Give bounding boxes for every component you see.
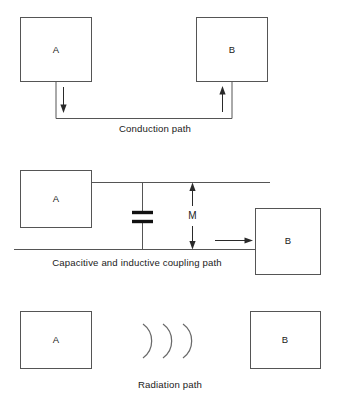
radiation-block-b-label: B [282,334,288,345]
coupling-block-a: A [21,171,92,228]
coupling-capacitor [132,213,153,222]
coupling-block-b: B [256,209,321,275]
conduction-block-a-label: A [53,44,60,55]
section-radiation-path: A B Radiation path [21,312,321,390]
radiation-waves [143,324,192,358]
conduction-path-caption: Conduction path [119,123,191,134]
coupling-paths-diagram: A B Conduction path [0,0,342,410]
downward-current-arrow [60,87,66,113]
radiation-block-b: B [251,312,321,369]
section-conduction-path: A B Conduction path [21,18,268,135]
coupled-current-arrow-head [245,237,254,243]
radiation-arc-3 [183,324,192,358]
coupling-block-b-label: B [285,235,291,246]
radiation-block-a-label: A [53,334,60,345]
mutual-inductance-label: M [188,210,196,221]
mutual-inductance-arrow-head-up [189,183,195,192]
radiation-block-a: A [21,312,92,369]
radiation-arc-1 [143,324,152,358]
capacitive-inductive-path-caption: Capacitive and inductive coupling path [52,257,221,268]
radiation-path-caption: Radiation path [138,379,202,390]
coupling-block-a-label: A [53,193,60,204]
radiation-arc-2 [163,324,172,358]
mutual-inductance-measure: M [188,183,196,250]
conduction-block-b-label: B [229,44,235,55]
conduction-block-b: B [197,18,268,82]
diagram-canvas: A B Conduction path [0,0,342,410]
coupled-current-arrow [215,237,253,243]
downward-current-arrow-head [60,105,66,114]
section-capacitive-inductive-path: A B [14,171,321,275]
upward-current-arrow [219,86,225,112]
conduction-block-a: A [21,18,92,82]
upward-current-arrow-head [219,86,225,95]
mutual-inductance-arrow-head-down [189,241,195,250]
conduction-loop-wire [56,82,232,119]
